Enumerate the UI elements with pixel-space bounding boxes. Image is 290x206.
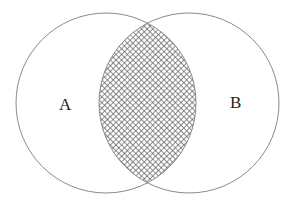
intersection-region [99,13,279,193]
set-b-label: B [230,93,241,112]
venn-diagram: A B [0,0,290,206]
set-a-label: A [59,95,72,114]
